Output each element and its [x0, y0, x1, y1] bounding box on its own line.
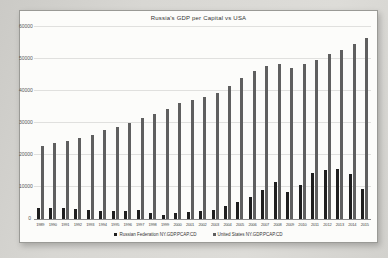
- x-tick-label-2002: 2002: [196, 222, 208, 227]
- legend-label: United States NY.GDP.PCAP.CD: [218, 232, 283, 237]
- x-tick-label-1995: 1995: [109, 222, 121, 227]
- bar-usa-1989: [41, 146, 44, 219]
- bar-usa-1997: [141, 118, 144, 219]
- bar-usa-2014: [353, 44, 356, 219]
- x-tick-label-1999: 1999: [159, 222, 171, 227]
- bar-usa-2004: [228, 86, 231, 220]
- bars-container: [34, 27, 371, 219]
- bar-group-2014: [346, 27, 358, 219]
- y-axis-labels: 0100002000030000400005000060000: [20, 27, 32, 219]
- bar-group-1991: [59, 27, 71, 219]
- legend-item-usa: United States NY.GDP.PCAP.CD: [213, 232, 283, 237]
- x-tick-label-2008: 2008: [271, 222, 283, 227]
- x-tick-label-1993: 1993: [84, 222, 96, 227]
- y-tick-label-20000: 20000: [19, 152, 31, 157]
- x-tick-label-1997: 1997: [134, 222, 146, 227]
- bar-russia-1998: [149, 213, 152, 219]
- bar-russia-2008: [274, 182, 277, 219]
- bar-russia-2015: [361, 189, 364, 219]
- bar-group-2004: [221, 27, 233, 219]
- bar-russia-2013: [336, 169, 339, 219]
- bar-russia-1990: [49, 208, 52, 219]
- bar-group-2007: [259, 27, 271, 219]
- x-tick-label-2003: 2003: [209, 222, 221, 227]
- y-tick-label-30000: 30000: [19, 120, 31, 125]
- bar-usa-1990: [53, 143, 56, 219]
- bar-usa-1996: [128, 123, 131, 219]
- x-tick-label-1990: 1990: [46, 222, 58, 227]
- bar-russia-2004: [224, 206, 227, 219]
- chart-panel: Russia's GDP per Capital vs USA 01000020…: [19, 10, 378, 243]
- bar-usa-2005: [240, 78, 243, 219]
- x-tick-label-2005: 2005: [234, 222, 246, 227]
- bar-group-2009: [284, 27, 296, 219]
- bar-usa-2007: [265, 66, 268, 220]
- bar-usa-2009: [290, 68, 293, 219]
- bar-russia-1996: [124, 211, 127, 220]
- bar-group-2005: [234, 27, 246, 219]
- bar-russia-1991: [62, 208, 65, 219]
- bar-group-1989: [34, 27, 46, 219]
- bar-group-1998: [146, 27, 158, 219]
- chart-legend: Russian Federation NY.GDP.PCAP.CDUnited …: [20, 232, 377, 237]
- bar-group-2011: [309, 27, 321, 219]
- bar-usa-2013: [340, 50, 343, 219]
- x-tick-label-1992: 1992: [71, 222, 83, 227]
- bar-group-1996: [121, 27, 133, 219]
- bar-russia-1989: [37, 208, 40, 219]
- bar-group-2000: [171, 27, 183, 219]
- x-tick-label-2013: 2013: [334, 222, 346, 227]
- bar-russia-1993: [87, 210, 90, 219]
- bar-group-2010: [296, 27, 308, 219]
- bar-group-1992: [71, 27, 83, 219]
- x-tick-label-2011: 2011: [309, 222, 321, 227]
- x-tick-label-1994: 1994: [96, 222, 108, 227]
- bar-russia-1992: [74, 209, 77, 219]
- legend-label: Russian Federation NY.GDP.PCAP.CD: [119, 232, 196, 237]
- chart-title: Russia's GDP per Capital vs USA: [20, 15, 377, 21]
- bar-group-1999: [159, 27, 171, 219]
- bar-usa-2010: [303, 64, 306, 219]
- bar-russia-2012: [324, 170, 327, 219]
- legend-item-russia: Russian Federation NY.GDP.PCAP.CD: [114, 232, 196, 237]
- x-tick-label-1996: 1996: [121, 222, 133, 227]
- bar-usa-1995: [116, 127, 119, 219]
- x-tick-label-2012: 2012: [321, 222, 333, 227]
- x-tick-label-2007: 2007: [259, 222, 271, 227]
- x-axis-labels: 1989199019911992199319941995199619971998…: [34, 222, 371, 227]
- bar-group-2003: [209, 27, 221, 219]
- bar-russia-1994: [99, 211, 102, 220]
- legend-swatch-icon: [213, 233, 216, 236]
- y-tick-label-10000: 10000: [19, 184, 31, 189]
- y-tick-label-40000: 40000: [19, 88, 31, 93]
- bar-usa-1998: [153, 114, 156, 219]
- bar-russia-2011: [311, 173, 314, 219]
- legend-swatch-icon: [114, 233, 117, 236]
- x-tick-label-2009: 2009: [284, 222, 296, 227]
- bar-group-1990: [46, 27, 58, 219]
- bar-russia-2010: [299, 185, 302, 219]
- x-tick-label-2006: 2006: [246, 222, 258, 227]
- bar-usa-1993: [91, 135, 94, 219]
- bar-russia-2006: [249, 197, 252, 219]
- bar-russia-2000: [174, 213, 177, 219]
- bar-group-2008: [271, 27, 283, 219]
- bar-group-2013: [334, 27, 346, 219]
- bar-group-1993: [84, 27, 96, 219]
- bar-russia-2003: [212, 210, 215, 220]
- bar-russia-2001: [187, 212, 190, 219]
- bar-russia-1999: [162, 215, 165, 219]
- bar-group-2015: [359, 27, 371, 219]
- y-tick-label-0: 0: [19, 216, 31, 221]
- bar-group-2002: [196, 27, 208, 219]
- bar-russia-2009: [286, 192, 289, 219]
- bar-russia-2002: [199, 211, 202, 219]
- bar-usa-2003: [216, 93, 219, 219]
- x-tick-label-2004: 2004: [221, 222, 233, 227]
- bar-group-2012: [321, 27, 333, 219]
- bar-usa-2006: [253, 71, 256, 219]
- plot-area: [34, 27, 371, 220]
- bar-russia-2005: [236, 202, 239, 219]
- bar-group-2006: [246, 27, 258, 219]
- bar-russia-1997: [137, 210, 140, 219]
